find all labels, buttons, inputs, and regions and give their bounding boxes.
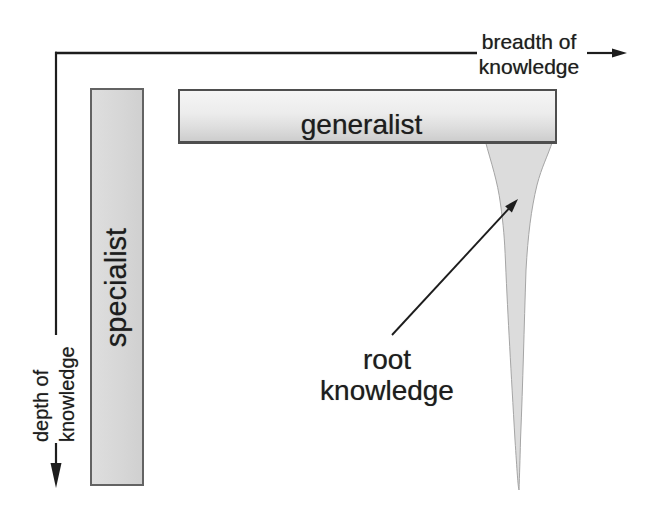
root-knowledge-label-line1: root	[312, 344, 462, 375]
breadth-axis-label: breadth of knowledge	[469, 29, 589, 79]
root-annotation-arrow-shaft	[392, 208, 510, 335]
root-knowledge-spike	[485, 140, 553, 490]
root-knowledge-label-line2: knowledge	[312, 375, 462, 406]
knowledge-diagram: specialist generalist breadth of knowled…	[0, 0, 657, 512]
generalist-bar: generalist	[178, 89, 557, 144]
breadth-arrowhead-icon	[612, 48, 627, 57]
depth-axis-label: depth of knowledge	[28, 340, 80, 442]
root-knowledge-label: root knowledge	[312, 344, 462, 406]
depth-axis-label-line2: knowledge	[54, 340, 80, 442]
depth-axis-label-line1: depth of	[28, 340, 54, 442]
breadth-axis-label-line1: breadth of	[469, 29, 589, 54]
specialist-bar: specialist	[90, 88, 144, 486]
generalist-bar-label: generalist	[301, 111, 422, 141]
specialist-bar-label: specialist	[103, 227, 132, 346]
depth-arrowhead-icon	[51, 463, 62, 488]
breadth-axis-label-line2: knowledge	[469, 54, 589, 79]
